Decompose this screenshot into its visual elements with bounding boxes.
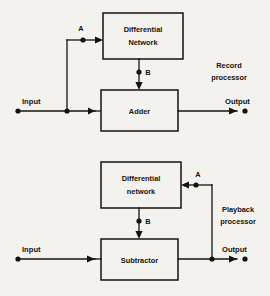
playback-differential-network-label-line2: network xyxy=(127,187,156,196)
record-input-wire xyxy=(15,108,101,115)
record-adder-label: Adder xyxy=(129,107,150,116)
playback-diffnet-input-arrowhead xyxy=(181,181,189,188)
record-branch-a-wire: A xyxy=(67,24,103,111)
record-diffnet-input-arrowhead xyxy=(95,36,103,43)
playback-output-terminal-dot xyxy=(242,256,247,261)
playback-tap-a-label: A xyxy=(195,170,201,179)
playback-feedback-wire: A xyxy=(181,170,212,259)
record-adder-input-arrowhead xyxy=(88,108,95,115)
record-tap-a-dot xyxy=(80,37,85,42)
record-differential-network-box xyxy=(103,13,183,59)
record-differential-network-label-line1: Differential xyxy=(124,25,163,34)
playback-differential-network-box xyxy=(101,162,181,208)
record-output-terminal-dot xyxy=(242,108,247,113)
playback-tap-b-wire: B xyxy=(135,208,150,239)
record-differential-network-block: Differential Network xyxy=(103,13,183,59)
record-adder-block: Adder xyxy=(101,90,178,131)
record-input-label: Input xyxy=(22,97,41,106)
playback-processor-label-line2: processor xyxy=(220,217,256,226)
record-tap-a-label: A xyxy=(78,24,84,33)
playback-processor-section: Differential network A B Subtractor xyxy=(15,162,256,280)
playback-subtractor-b-arrowhead xyxy=(135,231,142,239)
record-differential-network-label-line2: Network xyxy=(128,38,158,47)
record-tap-b-wire: B xyxy=(135,59,150,90)
record-processor-section: A Differential Network B Adder Input xyxy=(15,13,250,131)
record-output-label: Output xyxy=(225,97,250,106)
block-diagram: A Differential Network B Adder Input xyxy=(0,0,270,296)
record-output-arrowhead xyxy=(229,107,237,114)
playback-subtractor-input-arrowhead xyxy=(87,255,95,262)
playback-output-arrowhead xyxy=(229,255,237,262)
record-tap-b-label: B xyxy=(145,68,150,77)
record-processor-label-line1: Record xyxy=(216,61,242,70)
playback-output-label: Output xyxy=(222,245,247,254)
record-processor-label-line2: processor xyxy=(211,73,247,82)
record-adder-b-arrowhead xyxy=(135,82,142,90)
playback-differential-network-block: Differential network xyxy=(101,162,181,208)
playback-subtractor-block: Subtractor xyxy=(101,239,178,280)
playback-tap-a-dot xyxy=(193,182,198,187)
playback-output-junction-dot xyxy=(209,256,214,261)
playback-input-wire xyxy=(15,255,101,262)
playback-tap-b-dot xyxy=(136,218,141,223)
playback-input-label: Input xyxy=(22,245,41,254)
playback-subtractor-label: Subtractor xyxy=(121,256,158,265)
playback-tap-b-label: B xyxy=(145,217,150,226)
playback-processor-label-line1: Playback xyxy=(222,205,255,214)
playback-differential-network-label-line1: Differential xyxy=(122,174,161,183)
record-output-wire xyxy=(178,107,248,114)
playback-output-wire xyxy=(178,255,248,262)
record-tap-b-dot xyxy=(136,69,141,74)
